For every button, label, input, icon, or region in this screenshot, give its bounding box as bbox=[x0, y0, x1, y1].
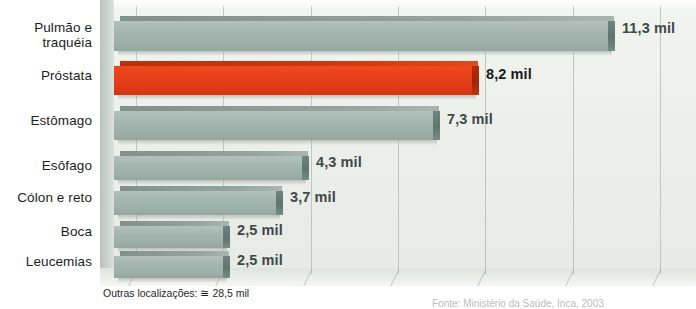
bar-chart: Pulmão e traquéiaPróstataEstômagoEsôfago… bbox=[0, 0, 696, 309]
value-label: 11,3 mil bbox=[622, 20, 675, 36]
value-label: 7,3 mil bbox=[447, 111, 493, 127]
value-label: 8,2 mil bbox=[486, 66, 532, 82]
source-credit: Fonte: Ministério da Saúde, Inca, 2003 bbox=[432, 298, 604, 309]
footnote-other-locations: Outras localizações: ≅ 28,5 mil bbox=[103, 287, 249, 299]
value-labels: 11,3 mil8,2 mil7,3 mil4,3 mil3,7 mil2,5 … bbox=[0, 0, 696, 309]
value-label: 2,5 mil bbox=[237, 252, 283, 268]
value-label: 4,3 mil bbox=[316, 154, 362, 170]
value-label: 2,5 mil bbox=[237, 222, 283, 238]
value-label: 3,7 mil bbox=[290, 189, 336, 205]
